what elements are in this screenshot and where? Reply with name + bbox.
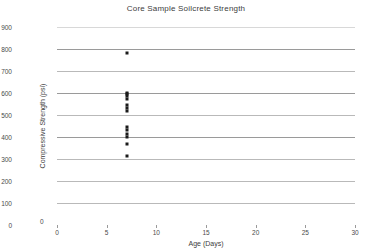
- x-tick-mark: [256, 225, 257, 228]
- x-tick-mark: [156, 225, 157, 228]
- y-axis-title: Compressive Strength (psi): [39, 66, 46, 186]
- data-point: [125, 136, 128, 139]
- y-axis-title-holder: Compressive Strength (psi): [20, 27, 21, 225]
- x-tick-label: 15: [202, 229, 209, 236]
- chart-container: Core Sample Soilcrete Strength 010020030…: [0, 0, 372, 250]
- gridline: [57, 27, 355, 28]
- data-point: [125, 154, 128, 157]
- x-tick-label: 0: [55, 229, 59, 236]
- x-tick-label: 30: [351, 229, 358, 236]
- x-tick-label: 5: [105, 229, 109, 236]
- gridline: [57, 49, 355, 50]
- x-axis-title: Age (Days): [57, 240, 355, 247]
- x-tick-mark: [57, 225, 58, 228]
- data-point: [125, 109, 128, 112]
- data-point: [125, 142, 128, 145]
- gridline: [57, 159, 355, 160]
- x-tick-label: 10: [153, 229, 160, 236]
- y-tick-label: 800: [0, 46, 12, 53]
- chart-title: Core Sample Soilcrete Strength: [0, 4, 372, 13]
- x-tick-label: 20: [252, 229, 259, 236]
- y-tick-label: 700: [0, 68, 12, 75]
- y-tick-label: 500: [0, 112, 12, 119]
- y-tick-label: 900: [0, 24, 12, 31]
- y-tick-label: 600: [0, 90, 12, 97]
- data-point: [125, 52, 128, 55]
- gridline: [57, 181, 355, 182]
- gridline: [57, 203, 355, 204]
- plot-area: [57, 27, 355, 225]
- gridline: [57, 93, 355, 94]
- y-tick-label: 300: [0, 156, 12, 163]
- y-tick-label: 100: [0, 200, 12, 207]
- y-tick-label: 0: [0, 222, 12, 229]
- origin-label: 0: [40, 218, 44, 225]
- x-tick-mark: [206, 225, 207, 228]
- x-tick-label: 25: [302, 229, 309, 236]
- gridline: [57, 115, 355, 116]
- y-tick-label: 200: [0, 178, 12, 185]
- data-point: [125, 97, 128, 100]
- x-tick-mark: [305, 225, 306, 228]
- x-tick-mark: [107, 225, 108, 228]
- y-tick-label: 400: [0, 134, 12, 141]
- gridline: [57, 71, 355, 72]
- gridline: [57, 137, 355, 138]
- x-tick-mark: [355, 225, 356, 228]
